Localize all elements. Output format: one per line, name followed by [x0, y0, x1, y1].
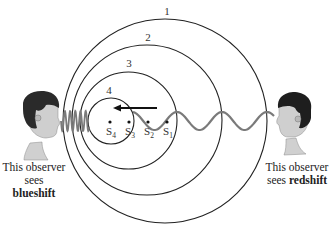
right-caption-line1: This observer: [266, 161, 329, 173]
blueshift-label: blueshift: [13, 187, 56, 199]
left-caption-line1: This observer: [3, 161, 66, 173]
source-label-4: S4: [106, 125, 116, 140]
wavefront-label-4: 4: [106, 84, 112, 96]
left-observer-head-icon: [23, 91, 60, 160]
left-caption-prefix: sees: [24, 174, 43, 186]
wavefront-label-1: 1: [164, 5, 170, 17]
redshifted-wave: [133, 112, 274, 130]
wavefront-circle-2: [72, 45, 222, 195]
left-observer-caption: This observer sees blueshift: [2, 161, 66, 200]
doppler-diagram: 1234 S1S2S3S4 This observer sees blueshi…: [0, 0, 332, 235]
motion-arrow-icon: [113, 105, 157, 112]
source-dot-3: [127, 120, 130, 123]
source-label-2: S2: [144, 125, 154, 140]
source-dot-1: [165, 120, 168, 123]
blueshifted-wave: [61, 111, 89, 131]
source-dot-2: [146, 120, 149, 123]
right-observer-head-icon: [277, 92, 312, 155]
source-dot-4: [108, 120, 111, 123]
source-label-1: S1: [163, 125, 173, 140]
right-caption-prefix: sees: [267, 174, 289, 186]
wavefront-label-3: 3: [126, 57, 132, 69]
right-observer-caption: This observer sees redshift: [264, 161, 330, 187]
wavefront-label-2: 2: [145, 31, 151, 43]
redshift-label: redshift: [289, 174, 327, 186]
